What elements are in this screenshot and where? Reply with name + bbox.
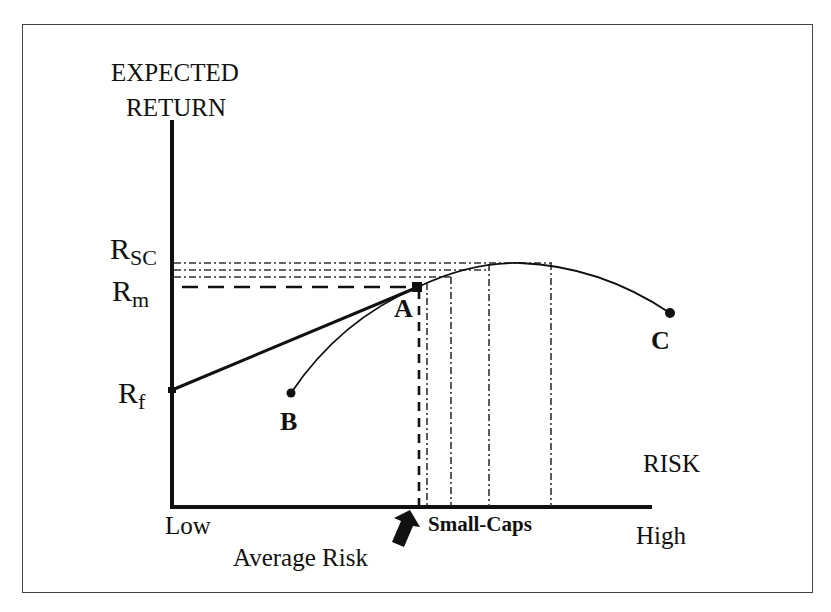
rf-label: Rf xyxy=(118,378,145,413)
x-tick-high: High xyxy=(636,523,686,548)
small-caps-reference-lines xyxy=(427,263,551,506)
risk-return-curve xyxy=(291,263,670,393)
point-b-label: B xyxy=(280,409,297,435)
point-c-label: C xyxy=(651,328,670,354)
point-b-marker xyxy=(287,389,296,398)
x-axis-title: RISK xyxy=(643,451,700,476)
rf-marker xyxy=(168,387,176,393)
point-a-label: A xyxy=(394,296,413,322)
rm-label: Rm xyxy=(112,276,149,311)
rsc-label: RSC xyxy=(110,234,157,269)
y-axis-title-line1: EXPECTED xyxy=(111,60,239,85)
capital-market-line xyxy=(172,287,418,390)
rm-label-sub: m xyxy=(132,287,149,312)
small-caps-label: Small-Caps xyxy=(428,514,532,535)
point-c-marker xyxy=(665,308,675,318)
average-risk-label: Average Risk xyxy=(233,545,368,570)
rm-label-main: R xyxy=(112,274,132,307)
rf-label-sub: f xyxy=(138,389,145,414)
y-axis-title-line2: RETURN xyxy=(126,95,226,120)
point-a-marker xyxy=(412,282,422,292)
average-risk-arrow-icon xyxy=(392,510,420,547)
rsc-label-sub: SC xyxy=(130,245,157,270)
rsc-reference-lines xyxy=(174,263,552,277)
x-tick-low: Low xyxy=(165,513,211,538)
rsc-label-main: R xyxy=(110,232,130,265)
rf-label-main: R xyxy=(118,376,138,409)
